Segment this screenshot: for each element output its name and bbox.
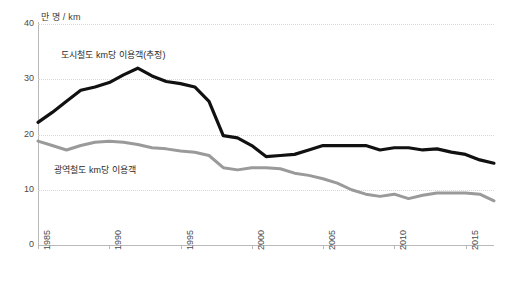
- series-label-urban-railway: 도시철도 km당 이용객(추정): [61, 48, 166, 61]
- plot-area: [0, 0, 508, 290]
- chart-container: 만 명 / km 010203040 198519901995200020052…: [0, 0, 508, 290]
- series-label-metropolitan-railway: 광역철도 km당 이용객: [54, 163, 136, 176]
- series-line-urban-railway: [38, 68, 494, 163]
